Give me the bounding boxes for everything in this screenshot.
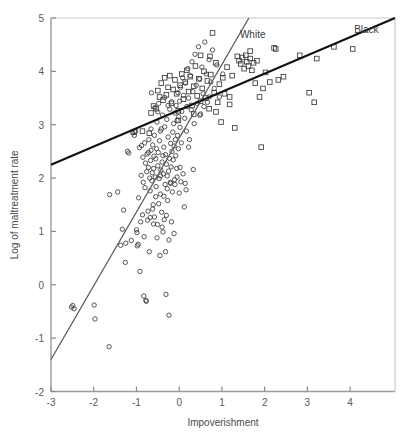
data-point-circle	[165, 198, 169, 202]
data-point-circle	[191, 89, 195, 93]
data-point-circle	[121, 208, 125, 212]
regression-lines	[51, 18, 395, 359]
data-point-circle	[196, 45, 200, 49]
data-point-circle	[107, 192, 111, 196]
black-regression-line	[51, 18, 395, 165]
scatter-plot-figure: -3-2-101234-2-1012345 WhiteBlack Impover…	[0, 0, 412, 442]
data-point-circle	[164, 292, 168, 296]
data-point-circle	[162, 125, 166, 129]
data-point-square	[200, 86, 205, 91]
data-point-circle	[170, 190, 174, 194]
data-point-circle	[148, 158, 152, 162]
data-point-circle	[183, 116, 187, 120]
data-point-circle	[165, 187, 169, 191]
data-point-circle	[174, 153, 178, 157]
data-point-square	[149, 111, 154, 116]
data-point-circle	[174, 103, 178, 107]
data-point-circle	[179, 141, 183, 145]
data-point-circle	[160, 225, 164, 229]
data-point-square	[162, 75, 167, 80]
data-point-square	[230, 73, 235, 78]
data-point-square	[209, 72, 214, 77]
data-point-square	[157, 95, 162, 100]
data-point-circle	[163, 182, 167, 186]
data-point-square	[168, 73, 173, 78]
data-point-circle	[169, 100, 173, 104]
data-point-circle	[181, 172, 185, 176]
y-tick-label: 5	[38, 13, 44, 24]
data-point-circle	[93, 317, 97, 321]
plot-border	[51, 18, 395, 392]
data-point-circle	[175, 175, 179, 179]
data-point-circle	[155, 236, 159, 240]
data-point-circle	[187, 137, 191, 141]
x-tick-label: 1	[219, 397, 225, 408]
y-tick-label: -1	[35, 333, 44, 344]
data-point-circle	[142, 235, 146, 239]
x-tick-label: -3	[47, 397, 56, 408]
data-point-square	[166, 85, 171, 90]
x-tick-label: 4	[347, 397, 353, 408]
data-point-circle	[147, 137, 151, 141]
data-point-square	[147, 131, 152, 136]
data-point-circle	[148, 215, 152, 219]
x-tick-label: 0	[176, 397, 182, 408]
data-point-circle	[217, 95, 221, 99]
plot-canvas: -3-2-101234-2-1012345 WhiteBlack Impover…	[0, 0, 412, 442]
data-point-circle	[156, 164, 160, 168]
data-point-circle	[171, 158, 175, 162]
data-point-circle	[184, 188, 188, 192]
data-point-circle	[183, 181, 187, 185]
data-point-circle	[191, 167, 195, 171]
data-point-square	[217, 82, 222, 87]
data-point-circle	[169, 165, 173, 169]
data-point-circle	[129, 238, 133, 242]
data-point-circle	[154, 184, 158, 188]
data-point-circle	[159, 210, 163, 214]
data-point-circle	[198, 113, 202, 117]
data-point-circle	[156, 150, 160, 154]
data-point-square	[156, 88, 161, 93]
data-point-square	[186, 89, 191, 94]
y-axis-title: Log of maltreatment rate	[9, 150, 20, 259]
x-tick-label: 2	[262, 397, 268, 408]
data-point-square	[225, 65, 230, 70]
data-point-square	[350, 47, 355, 52]
data-point-circle	[136, 196, 140, 200]
data-point-circle	[151, 143, 155, 147]
x-axis-title: Impoverishment	[187, 417, 258, 428]
data-point-circle	[123, 260, 127, 264]
data-point-circle	[186, 145, 190, 149]
data-point-circle	[179, 180, 183, 184]
data-point-circle	[161, 230, 165, 234]
white-regression-line	[51, 18, 249, 359]
series-annotation-white: White	[240, 29, 266, 40]
data-point-circle	[178, 125, 182, 129]
data-point-circle	[154, 195, 158, 199]
data-point-circle	[162, 194, 166, 198]
data-point-circle	[210, 48, 214, 52]
data-point-square	[227, 95, 232, 100]
data-point-square	[315, 56, 320, 61]
series-annotations: WhiteBlack	[240, 24, 380, 40]
data-point-circle	[135, 230, 139, 234]
axis-tick-labels: -3-2-101234-2-1012345	[35, 13, 353, 408]
data-point-square	[232, 126, 237, 131]
data-point-circle	[152, 215, 156, 219]
data-point-circle	[172, 231, 176, 235]
data-point-circle	[173, 182, 177, 186]
series-annotation-black: Black	[354, 24, 379, 35]
y-tick-label: 2	[38, 173, 44, 184]
data-point-circle	[162, 217, 166, 221]
data-point-circle	[150, 171, 154, 175]
data-point-circle	[151, 203, 155, 207]
data-point-circle	[141, 180, 145, 184]
y-tick-label: 3	[38, 120, 44, 131]
data-point-circle	[157, 176, 161, 180]
data-point-circle	[169, 220, 173, 224]
data-point-circle	[203, 40, 207, 44]
data-points	[69, 31, 355, 349]
axis-ticks	[51, 18, 350, 392]
data-point-circle	[182, 205, 186, 209]
data-point-circle	[140, 213, 144, 217]
